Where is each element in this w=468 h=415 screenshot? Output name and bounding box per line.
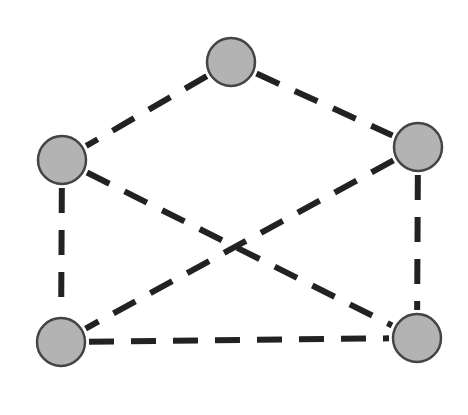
- edges-group: [61, 74, 418, 342]
- edge-bottom-left-bottom-right: [89, 338, 389, 341]
- node-bottom-left: [37, 318, 85, 366]
- edge-right-bottom-right: [417, 175, 418, 310]
- edge-left-bottom-left: [61, 188, 62, 314]
- node-right: [394, 123, 442, 171]
- edge-top-left: [86, 76, 207, 146]
- graph-diagram: [0, 0, 468, 415]
- edge-top-right: [256, 74, 392, 136]
- node-left: [38, 136, 86, 184]
- node-top: [207, 38, 255, 86]
- node-bottom-right: [393, 314, 441, 362]
- edge-right-bottom-left: [86, 160, 394, 328]
- nodes-group: [37, 38, 442, 366]
